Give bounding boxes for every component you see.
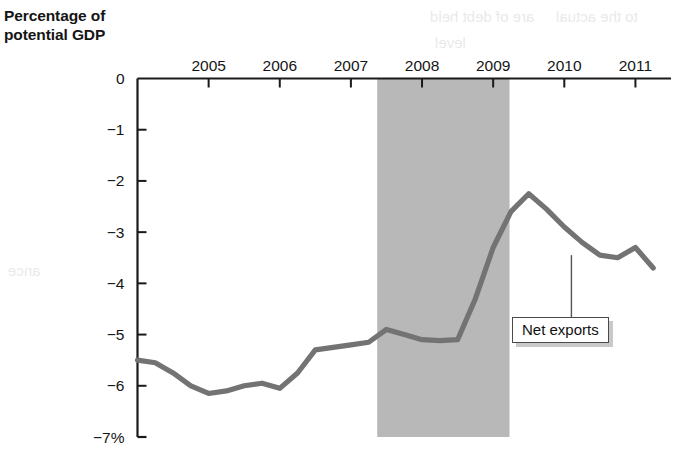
svg-text:2009: 2009 (476, 57, 510, 74)
svg-text:2007: 2007 (334, 57, 368, 74)
svg-text:−1: −1 (107, 121, 125, 138)
svg-text:2010: 2010 (547, 57, 582, 74)
line-chart-plot: 2005200620072008200920102011 0−1−2−3−4−5… (0, 0, 678, 451)
svg-text:2011: 2011 (619, 57, 652, 74)
y-axis-ticks (138, 130, 147, 386)
svg-text:−3: −3 (107, 224, 125, 241)
chart-figure: are of debt held to the actual level anc… (0, 0, 678, 451)
svg-text:2008: 2008 (405, 57, 439, 74)
svg-text:2006: 2006 (263, 57, 297, 74)
svg-text:−5: −5 (107, 326, 125, 343)
net-exports-annotation-label: Net exports (522, 321, 599, 338)
svg-text:−6: −6 (107, 377, 125, 394)
svg-text:2005: 2005 (191, 57, 225, 74)
svg-text:−2: −2 (107, 172, 125, 189)
y-axis-tick-labels: 0−1−2−3−4−5−6−7% (93, 70, 125, 446)
svg-text:0: 0 (116, 70, 125, 87)
net-exports-annotation: Net exports (512, 317, 609, 343)
x-axis-tick-labels: 2005200620072008200920102011 (191, 57, 652, 74)
x-axis-ticks (209, 79, 636, 88)
svg-text:−7%: −7% (93, 429, 125, 446)
svg-text:−4: −4 (107, 275, 125, 292)
